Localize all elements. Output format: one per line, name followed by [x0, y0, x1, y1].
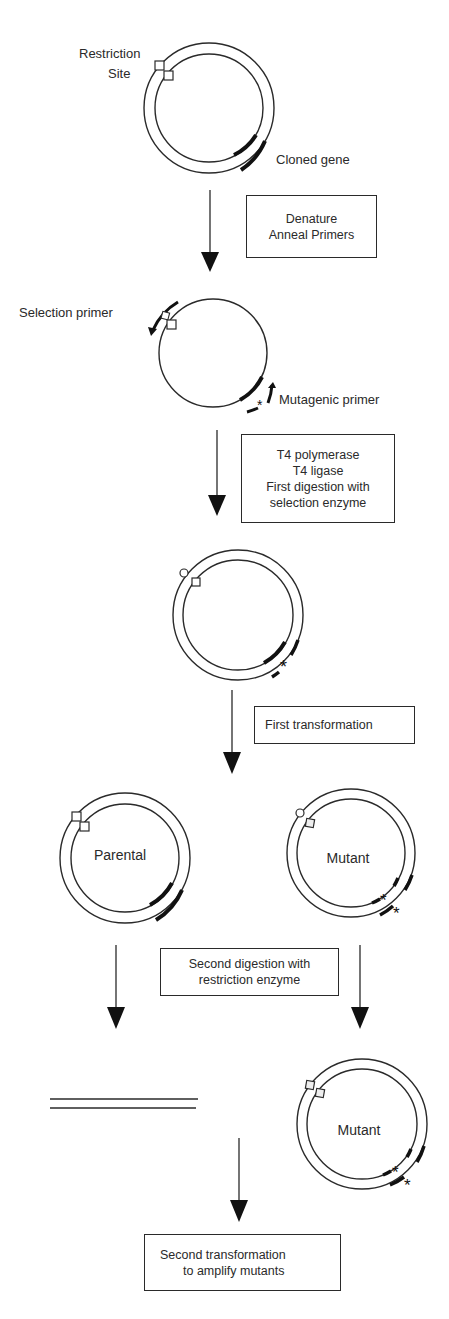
restriction-site-icon: [164, 71, 173, 80]
linearized-parental-dna: [50, 1099, 198, 1108]
arrow-down-5: [230, 1138, 248, 1222]
mutant-label-2: Mutant: [338, 1122, 381, 1138]
restriction-site-icon: [155, 61, 164, 70]
mutation-marker-icon: *: [393, 904, 400, 923]
step-box-second-transformation: Second transformation to amplify mutants: [144, 1234, 341, 1291]
mutation-marker-icon: *: [380, 891, 387, 910]
mutation-marker-icon: *: [280, 657, 287, 677]
restriction-site-icon: [167, 320, 176, 329]
mutation-marker-icon: *: [404, 1176, 411, 1195]
restriction-site-icon: [72, 812, 81, 821]
step-box-denature-anneal: Denature Anneal Primers: [246, 195, 377, 258]
plasmid-single-stranded-with-primers: *: [148, 299, 276, 413]
restriction-site-icon: [80, 822, 89, 831]
selection-site-icon: [305, 818, 314, 827]
selection-site-icon: [296, 809, 304, 817]
arrow-down-4-right: [351, 945, 369, 1029]
restriction-site-icon: [315, 1088, 324, 1097]
restriction-site-icon: [192, 578, 200, 586]
mutation-marker-icon: *: [257, 397, 263, 413]
step-box-first-transformation: First transformation: [254, 706, 415, 744]
mutation-marker-icon: *: [392, 1163, 399, 1182]
mutant-label-1: Mutant: [327, 850, 370, 866]
arrow-down-2: [208, 430, 226, 516]
diagram-canvas: * * * *: [0, 0, 449, 1319]
selection-site-icon: [161, 311, 170, 320]
plasmid-double-stranded: [144, 43, 274, 173]
cloned-gene-label: Cloned gene: [276, 151, 350, 168]
step-box-second-digestion: Second digestion with restriction enzyme: [160, 948, 339, 996]
plasmid-heteroduplex: *: [173, 550, 303, 680]
parental-label: Parental: [94, 847, 146, 863]
arrow-down-1: [201, 190, 219, 272]
selection-primer-label: Selection primer: [19, 304, 113, 321]
step-box-polymerase-ligase: T4 polymerase T4 ligase First digestion …: [241, 434, 395, 523]
selection-site-icon: [180, 569, 188, 577]
mutagenic-primer-label: Mutagenic primer: [279, 391, 379, 408]
arrow-down-4-left: [107, 945, 125, 1029]
arrow-down-3: [223, 690, 241, 774]
restriction-site-label: Restriction Site: [79, 44, 140, 84]
restriction-site-icon: [305, 1080, 314, 1089]
